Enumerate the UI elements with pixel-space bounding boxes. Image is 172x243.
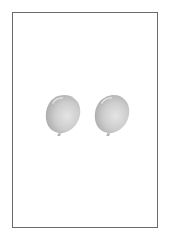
balloon-left [44,94,82,138]
balloon-right [93,94,131,138]
picture-frame [12,12,158,228]
balloon-icon [93,94,131,138]
balloon-icon [44,94,82,138]
